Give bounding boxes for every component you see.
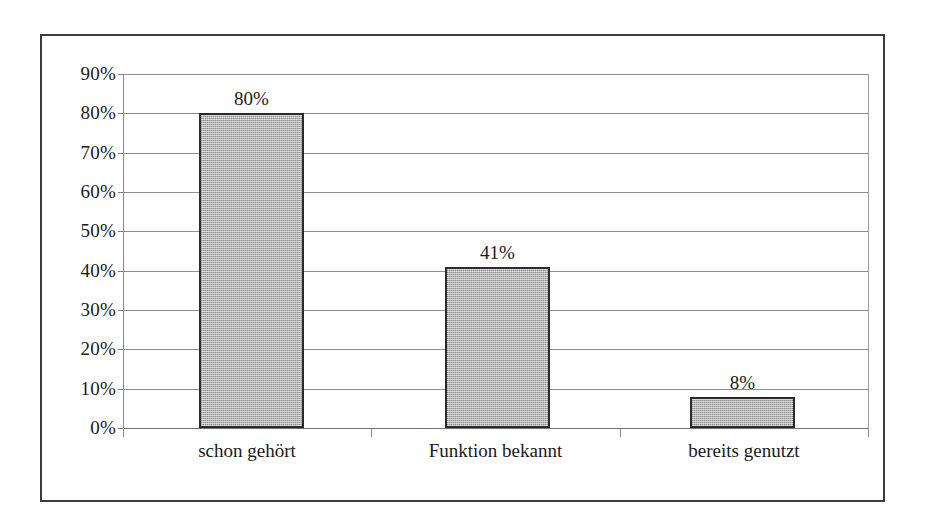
bar-value-label-bereits-genutzt: 8% — [690, 373, 795, 392]
y-tick-label-50: 50% — [60, 221, 116, 240]
y-tick-mark-20 — [118, 349, 123, 350]
plot-right-edge-line — [868, 74, 869, 428]
y-tick-label-40: 40% — [60, 261, 116, 280]
y-tick-mark-10 — [118, 389, 123, 390]
y-tick-label-30: 30% — [60, 300, 116, 319]
y-tick-mark-90 — [118, 74, 123, 75]
category-label-bereits-genutzt: bereits genutzt — [620, 440, 868, 462]
y-tick-mark-50 — [118, 231, 123, 232]
y-axis-tick-labels: 90% 80% 70% 60% 50% 40% 30% 20% 10% 0% — [42, 74, 116, 428]
bar-bereits-genutzt[interactable] — [690, 397, 795, 428]
y-tick-label-0: 0% — [60, 418, 116, 437]
y-tick-mark-30 — [118, 310, 123, 311]
plot-area: 80% 41% 8% — [123, 74, 868, 428]
category-tick-0 — [123, 428, 124, 437]
bar-funktion-bekannt[interactable] — [445, 267, 550, 428]
bar-value-label-funktion-bekannt: 41% — [445, 243, 550, 262]
y-tick-mark-80 — [118, 113, 123, 114]
value-axis-line — [123, 74, 124, 428]
y-tick-label-70: 70% — [60, 143, 116, 162]
y-tick-mark-60 — [118, 192, 123, 193]
category-tick-3 — [868, 428, 869, 437]
chart-frame: 90% 80% 70% 60% 50% 40% 30% 20% 10% 0% — [40, 34, 885, 502]
y-tick-label-80: 80% — [60, 103, 116, 122]
category-axis-labels: schon gehört Funktion bekannt bereits ge… — [123, 440, 868, 470]
category-tick-1 — [371, 428, 372, 437]
bar-value-label-schon-gehoert: 80% — [199, 89, 304, 108]
y-tick-label-60: 60% — [60, 182, 116, 201]
category-label-funktion-bekannt: Funktion bekannt — [371, 440, 620, 462]
y-tick-mark-70 — [118, 153, 123, 154]
y-tick-label-10: 10% — [60, 379, 116, 398]
bar-schon-gehoert[interactable] — [199, 113, 304, 428]
y-tick-mark-40 — [118, 271, 123, 272]
category-axis-ticks — [123, 428, 869, 438]
category-label-schon-gehoert: schon gehört — [123, 440, 371, 462]
y-tick-label-90: 90% — [60, 64, 116, 83]
gridline-90 — [123, 74, 868, 75]
category-tick-2 — [620, 428, 621, 437]
y-tick-label-20: 20% — [60, 339, 116, 358]
